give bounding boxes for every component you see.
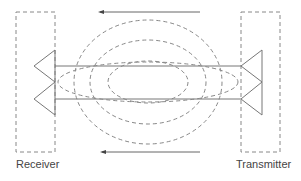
transmitter-box [241, 12, 280, 152]
bottom-arrow-icon [100, 150, 200, 154]
field-lines [58, 20, 238, 144]
receiver-antenna-icon [34, 50, 55, 115]
transmitter-label: Transmitter [236, 158, 291, 170]
transmitter-antenna-icon [241, 50, 262, 115]
transmission-lines [55, 66, 241, 99]
antenna-field-diagram [0, 0, 301, 181]
top-arrow-icon [98, 10, 200, 14]
receiver-box [16, 12, 55, 152]
receiver-label: Receiver [16, 158, 59, 170]
